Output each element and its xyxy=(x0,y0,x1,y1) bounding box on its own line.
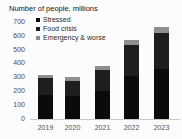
y-tick-label: 0 xyxy=(0,115,25,123)
bar-segment-food-crisis xyxy=(95,70,110,90)
emergency-worse-swatch-icon xyxy=(36,36,40,40)
y-tick-label: 700 xyxy=(0,18,25,26)
y-tick-label: 100 xyxy=(0,101,25,109)
bar-segment-food-crisis xyxy=(38,78,53,95)
bar-segment-food-crisis xyxy=(65,81,80,96)
bar-segment-emergency-worse xyxy=(95,66,110,70)
bar-segment-emergency-worse xyxy=(38,75,53,78)
bar-segment-food-crisis xyxy=(124,45,139,76)
x-tick-label-2019: 2019 xyxy=(32,124,60,132)
x-tick-label-2020: 2020 xyxy=(59,124,87,132)
bar-segment-stressed xyxy=(124,76,139,119)
y-tick-label: 500 xyxy=(0,46,25,54)
legend-label-food-crisis: Food crisis xyxy=(43,25,77,33)
legend-label-stressed: Stressed xyxy=(43,16,71,24)
bar-2019 xyxy=(38,75,53,119)
bar-segment-food-crisis xyxy=(154,33,169,69)
y-tick-label: 600 xyxy=(0,32,25,40)
stressed-swatch-icon xyxy=(36,18,40,22)
y-tick-label: 400 xyxy=(0,59,25,67)
bar-segment-stressed xyxy=(95,91,110,119)
x-axis-line xyxy=(30,119,180,120)
y-tick-label: 200 xyxy=(0,87,25,95)
food-crisis-swatch-icon xyxy=(36,27,40,31)
bar-2020 xyxy=(65,77,80,119)
x-tick-label-2021: 2021 xyxy=(89,124,117,132)
bar-segment-stressed xyxy=(154,69,169,119)
legend-item-food-crisis: Food crisis xyxy=(36,25,106,33)
legend-label-emergency-worse: Emergency & worse xyxy=(43,34,106,42)
bar-segment-emergency-worse xyxy=(65,77,80,80)
bar-2023 xyxy=(154,27,169,119)
legend-item-stressed: Stressed xyxy=(36,16,106,24)
bar-segment-emergency-worse xyxy=(154,27,169,33)
chart-title: Number of people, millions xyxy=(9,5,98,13)
bar-segment-stressed xyxy=(38,95,53,119)
chart-figure: Number of people, millions Stressed Food… xyxy=(0,0,182,139)
bar-segment-stressed xyxy=(65,96,80,119)
bar-2021 xyxy=(95,66,110,119)
legend-item-emergency-worse: Emergency & worse xyxy=(36,34,106,42)
legend: Stressed Food crisis Emergency & worse xyxy=(36,16,106,43)
x-tick-label-2022: 2022 xyxy=(118,124,146,132)
x-tick-label-2023: 2023 xyxy=(148,124,176,132)
y-tick-label: 300 xyxy=(0,73,25,81)
bar-2022 xyxy=(124,40,139,119)
bar-segment-emergency-worse xyxy=(124,40,139,45)
